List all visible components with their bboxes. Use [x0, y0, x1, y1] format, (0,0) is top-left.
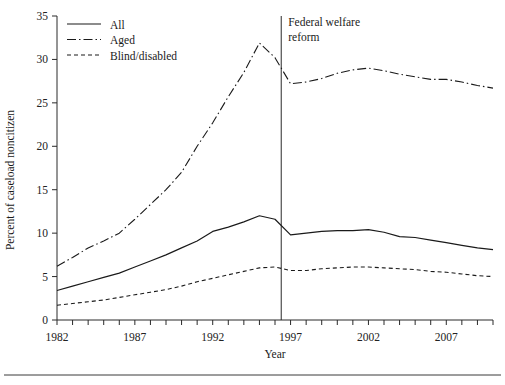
x-tick-label: 2007 [435, 331, 458, 343]
federal-welfare-reform-label-line2: reform [288, 31, 319, 43]
legend-label-all: All [110, 19, 125, 31]
x-tick-label: 1987 [123, 331, 146, 343]
y-axis-tick-labels: 05101520253035 [37, 10, 49, 326]
data-series-group [57, 43, 493, 305]
x-tick-label: 1997 [279, 331, 302, 343]
y-tick-label: 25 [37, 97, 49, 109]
y-tick-label: 15 [37, 184, 49, 196]
y-axis-title: Percent of caseload noncitizen [4, 110, 16, 250]
y-tick-label: 10 [37, 227, 49, 239]
y-tick-label: 35 [37, 10, 49, 22]
axes-group [57, 16, 493, 320]
legend-label-blind-disabled: Blind/disabled [110, 50, 177, 62]
annotation-group: Federal welfare reform [281, 16, 360, 320]
y-tick-label: 20 [37, 140, 49, 152]
series-line-all [57, 216, 493, 291]
x-axis-tick-labels: 198219871992199720022007 [46, 331, 459, 343]
y-tick-label: 30 [37, 53, 49, 65]
line-chart: 05101520253035 198219871992199720022007 … [0, 0, 505, 385]
x-tick-label: 2002 [357, 331, 380, 343]
y-tick-label: 0 [42, 314, 48, 326]
figure-container: 05101520253035 198219871992199720022007 … [0, 0, 505, 385]
y-axis-ticks [52, 16, 57, 320]
series-line-blind-disabled [57, 267, 493, 305]
y-tick-label: 5 [42, 271, 48, 283]
x-axis-ticks [57, 320, 493, 325]
series-line-aged [57, 43, 493, 266]
x-axis-title: Year [264, 348, 285, 360]
x-tick-label: 1982 [46, 331, 69, 343]
x-tick-label: 1992 [201, 331, 224, 343]
federal-welfare-reform-label-line1: Federal welfare [288, 16, 360, 28]
legend-label-aged: Aged [110, 34, 135, 47]
chart-legend: AllAgedBlind/disabled [67, 19, 177, 62]
